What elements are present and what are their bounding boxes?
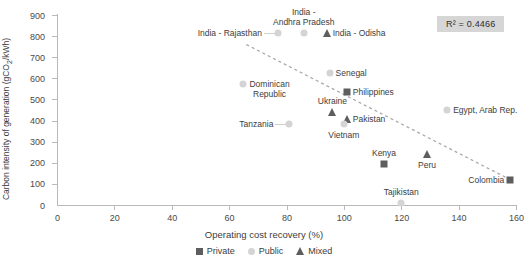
data-point[interactable] bbox=[274, 29, 281, 36]
r2-annotation: R² = 0.4466 bbox=[437, 16, 504, 32]
data-point-label: Pakistan bbox=[353, 114, 386, 124]
y-axis-title-text-suffix: /kWh) bbox=[1, 38, 11, 60]
x-axis-tick: 20 bbox=[114, 205, 115, 210]
data-point[interactable] bbox=[286, 120, 293, 127]
legend-item-mixed[interactable]: Mixed bbox=[296, 246, 332, 256]
x-axis-tick: 100 bbox=[344, 205, 345, 210]
y-axis-tick: 800 bbox=[52, 36, 57, 37]
data-point-label: DominicanRepublic bbox=[249, 79, 289, 99]
y-axis-tick-label: 300 bbox=[30, 137, 45, 147]
y-axis-tick-label: 100 bbox=[30, 179, 45, 189]
x-axis-tick-label: 60 bbox=[225, 213, 235, 223]
data-point[interactable] bbox=[398, 199, 405, 206]
x-axis-tick-label: 140 bbox=[452, 213, 467, 223]
scatter-chart: Carbon intensity of generation (gCO2/kWh… bbox=[0, 0, 528, 264]
x-axis-tick: 40 bbox=[172, 205, 173, 210]
data-point-label: India - Odisha bbox=[333, 28, 386, 38]
y-axis-tick-label: 800 bbox=[30, 32, 45, 42]
y-axis-tick-label: 600 bbox=[30, 74, 45, 84]
data-point[interactable] bbox=[507, 176, 514, 183]
x-axis-tick-label: 0 bbox=[55, 213, 60, 223]
x-axis-tick-label: 20 bbox=[110, 213, 120, 223]
legend-item-private[interactable]: Private bbox=[196, 246, 235, 256]
legend-label-mixed: Mixed bbox=[308, 246, 332, 256]
y-axis-tick: 200 bbox=[52, 163, 57, 164]
x-axis-tick: 60 bbox=[229, 205, 230, 210]
data-point-label: Tanzania bbox=[239, 119, 273, 129]
y-axis-tick: 500 bbox=[52, 99, 57, 100]
x-axis-tick-label: 120 bbox=[394, 213, 409, 223]
data-point-label: India -Andhra Pradesh bbox=[273, 7, 334, 27]
y-axis-title: Carbon intensity of generation (gCO2/kWh… bbox=[0, 14, 14, 224]
data-point-label: Senegal bbox=[336, 68, 367, 78]
y-axis-tick: 900 bbox=[52, 15, 57, 16]
y-axis-tick: 700 bbox=[52, 57, 57, 58]
x-axis-tick-label: 80 bbox=[282, 213, 292, 223]
plot-area: 1002003004005006007008009000020406080100… bbox=[57, 15, 516, 205]
y-axis-tick-label: 200 bbox=[30, 158, 45, 168]
y-axis-tick-label: 400 bbox=[30, 116, 45, 126]
data-point-label: Ukraine bbox=[318, 96, 347, 106]
data-point-label: Egypt, Arab Rep. bbox=[453, 105, 517, 115]
label-leader-line bbox=[264, 33, 275, 34]
chart-legend: Private Public Mixed bbox=[0, 246, 528, 256]
y-axis-tick: 400 bbox=[52, 121, 57, 122]
data-point-label: Kenya bbox=[372, 148, 396, 158]
data-point[interactable] bbox=[240, 80, 247, 87]
x-axis-tick-label: 40 bbox=[167, 213, 177, 223]
legend-label-public: Public bbox=[259, 246, 284, 256]
data-point[interactable] bbox=[444, 107, 451, 114]
data-point-label: Vietnam bbox=[328, 130, 359, 140]
x-axis-tick-label: 160 bbox=[509, 213, 524, 223]
square-marker-icon bbox=[196, 248, 203, 255]
y-axis-title-text: Carbon intensity of generation (gCO bbox=[1, 64, 11, 200]
y-axis-tick-label: 500 bbox=[30, 95, 45, 105]
legend-label-private: Private bbox=[207, 246, 235, 256]
data-point[interactable] bbox=[326, 70, 333, 77]
data-point[interactable] bbox=[343, 89, 350, 96]
y-axis-tick-label: 700 bbox=[30, 53, 45, 63]
y-axis-tick: 100 bbox=[52, 184, 57, 185]
circle-marker-icon bbox=[248, 248, 255, 255]
y-axis-tick: 300 bbox=[52, 142, 57, 143]
y-axis-title-subscript: 2 bbox=[6, 60, 13, 64]
data-point-label: Colombia bbox=[468, 175, 504, 185]
y-axis-tick: 600 bbox=[52, 78, 57, 79]
data-point[interactable] bbox=[328, 108, 336, 116]
x-axis-tick: 80 bbox=[287, 205, 288, 210]
x-axis-tick: 0 bbox=[57, 205, 58, 210]
y-axis-tick-label: 0 bbox=[40, 201, 45, 211]
data-point[interactable] bbox=[323, 29, 331, 37]
x-axis-tick: 140 bbox=[459, 205, 460, 210]
x-axis-title: Operating cost recovery (%) bbox=[0, 229, 528, 240]
x-axis-tick: 160 bbox=[516, 205, 517, 210]
data-point-label: Peru bbox=[418, 160, 436, 170]
data-point[interactable] bbox=[300, 29, 307, 36]
triangle-marker-icon bbox=[296, 247, 304, 255]
data-point[interactable] bbox=[423, 150, 431, 158]
label-leader-line bbox=[275, 124, 286, 125]
data-point[interactable] bbox=[381, 160, 388, 167]
x-axis-tick-label: 100 bbox=[337, 213, 352, 223]
data-point-label: Tajikistan bbox=[384, 187, 419, 197]
data-point-label: India - Rajasthan bbox=[198, 28, 262, 38]
data-point-label: Philippines bbox=[353, 87, 394, 97]
data-point[interactable] bbox=[340, 120, 347, 127]
y-axis-tick-label: 900 bbox=[30, 11, 45, 21]
legend-item-public[interactable]: Public bbox=[248, 246, 284, 256]
